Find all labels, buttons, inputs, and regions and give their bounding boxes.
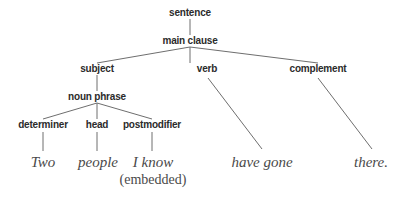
edge-noun-phrase-postmodifier	[97, 103, 152, 119]
node-noun-phrase: noun phrase	[68, 91, 126, 102]
word-i-know: I know	[132, 154, 173, 170]
word-there: there.	[354, 154, 388, 170]
node-verb: verb	[197, 63, 217, 74]
edge-complement-there	[318, 78, 372, 149]
node-determiner: determiner	[18, 119, 68, 130]
node-sentence: sentence	[169, 7, 211, 18]
edge-main-clause-complement	[190, 47, 318, 63]
edge-main-clause-subject	[97, 47, 190, 63]
edge-noun-phrase-determiner	[43, 103, 97, 119]
node-head: head	[86, 119, 109, 130]
node-main-clause: main clause	[162, 35, 218, 46]
note-embedded: (embedded)	[120, 172, 187, 188]
syntax-tree-diagram: sentence main clause subject verb comple…	[0, 0, 403, 197]
tree-leaves: Two people I know (embedded) have gone t…	[31, 154, 388, 188]
edge-verb-have-gone	[208, 78, 262, 149]
word-people: people	[77, 154, 118, 170]
word-have-gone: have gone	[231, 154, 293, 170]
node-postmodifier: postmodifier	[123, 119, 181, 130]
node-complement: complement	[290, 63, 348, 74]
node-subject: subject	[80, 63, 114, 74]
word-two: Two	[31, 154, 56, 170]
